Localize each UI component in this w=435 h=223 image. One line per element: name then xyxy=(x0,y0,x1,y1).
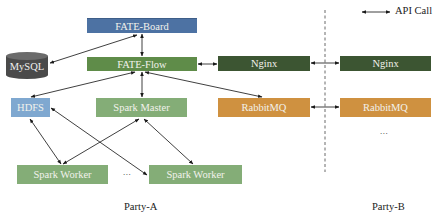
edge-master-worker1 xyxy=(63,119,139,164)
mysql-label: MySQL xyxy=(6,61,48,72)
party-b-label: Party-B xyxy=(372,201,405,212)
spark-worker-1-label: Spark Worker xyxy=(33,169,91,180)
nginx-party-b-node: Nginx xyxy=(340,56,431,71)
spark-worker-1-node: Spark Worker xyxy=(17,165,108,184)
fate-flow-label: FATE-Flow xyxy=(117,59,166,70)
nginx-party-b-label: Nginx xyxy=(372,58,398,69)
rabbitmq-party-b-node: RabbitMQ xyxy=(340,98,431,117)
spark-master-label: Spark Master xyxy=(113,102,169,113)
spark-worker-2-node: Spark Worker xyxy=(149,165,242,184)
nginx-party-a-node: Nginx xyxy=(218,56,310,71)
spark-worker-2-label: Spark Worker xyxy=(166,169,224,180)
edge-flow-rabbitmq xyxy=(145,72,262,97)
legend-label: API Call xyxy=(395,5,432,16)
party-b-ellipsis: ... xyxy=(380,126,388,136)
mysql-node: MySQL xyxy=(6,52,48,79)
rabbitmq-party-b-label: RabbitMQ xyxy=(363,102,408,113)
fate-flow-node: FATE-Flow xyxy=(87,57,197,71)
architecture-diagram: FATE-Board FATE-Flow MySQL Nginx Nginx H… xyxy=(0,0,435,223)
nginx-party-a-label: Nginx xyxy=(251,58,277,69)
hdfs-label: HDFS xyxy=(17,102,44,113)
spark-master-node: Spark Master xyxy=(96,98,187,117)
fate-board-node: FATE-Board xyxy=(87,18,197,33)
edge-hdfs-worker1 xyxy=(30,119,61,164)
hdfs-node: HDFS xyxy=(11,98,50,117)
party-a-label: Party-A xyxy=(124,201,157,212)
fate-board-label: FATE-Board xyxy=(115,21,168,32)
rabbitmq-party-a-node: RabbitMQ xyxy=(218,98,310,117)
edge-master-worker2 xyxy=(144,119,193,164)
rabbitmq-party-a-label: RabbitMQ xyxy=(242,102,287,113)
workers-ellipsis: ... xyxy=(123,167,131,177)
